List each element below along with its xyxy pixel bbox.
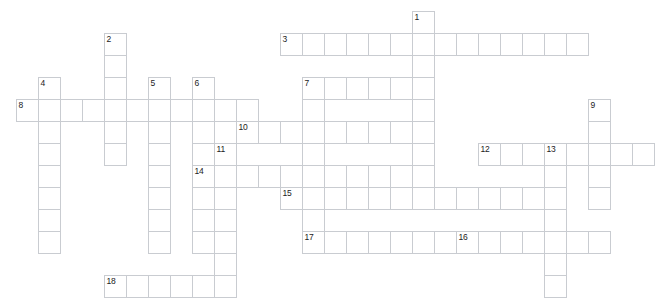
- crossword-cell[interactable]: [324, 121, 347, 144]
- crossword-cell-numbered[interactable]: 2: [104, 33, 127, 56]
- crossword-cell[interactable]: [500, 33, 523, 56]
- crossword-cell[interactable]: [522, 143, 545, 166]
- crossword-cell[interactable]: [412, 165, 435, 188]
- crossword-cell[interactable]: [390, 165, 413, 188]
- crossword-cell[interactable]: [368, 77, 391, 100]
- crossword-cell-numbered[interactable]: 6: [192, 77, 215, 100]
- crossword-cell-numbered[interactable]: 10: [236, 121, 259, 144]
- crossword-cell-numbered[interactable]: 8: [16, 99, 39, 122]
- crossword-cell-numbered[interactable]: 17: [302, 231, 325, 254]
- crossword-cell[interactable]: [544, 253, 567, 276]
- crossword-cell[interactable]: [478, 187, 501, 210]
- crossword-cell[interactable]: [192, 209, 215, 232]
- crossword-cell[interactable]: [500, 143, 523, 166]
- crossword-cell[interactable]: [192, 275, 215, 298]
- crossword-cell[interactable]: [148, 99, 171, 122]
- crossword-cell[interactable]: [346, 77, 369, 100]
- crossword-cell-numbered[interactable]: 9: [588, 99, 611, 122]
- crossword-cell[interactable]: [390, 231, 413, 254]
- crossword-cell[interactable]: [38, 187, 61, 210]
- crossword-cell[interactable]: [324, 231, 347, 254]
- crossword-cell[interactable]: [324, 165, 347, 188]
- crossword-cell-numbered[interactable]: 16: [456, 231, 479, 254]
- crossword-cell[interactable]: [258, 121, 281, 144]
- crossword-cell[interactable]: [500, 187, 523, 210]
- crossword-cell[interactable]: [544, 275, 567, 298]
- crossword-cell[interactable]: [610, 143, 633, 166]
- crossword-cell[interactable]: [456, 187, 479, 210]
- crossword-cell-numbered[interactable]: 15: [280, 187, 303, 210]
- crossword-cell[interactable]: [214, 187, 237, 210]
- crossword-cell[interactable]: [302, 33, 325, 56]
- crossword-cell[interactable]: [214, 231, 237, 254]
- crossword-cell[interactable]: [148, 165, 171, 188]
- crossword-cell[interactable]: [390, 33, 413, 56]
- crossword-cell[interactable]: [390, 121, 413, 144]
- crossword-cell[interactable]: [258, 165, 281, 188]
- crossword-cell[interactable]: [544, 209, 567, 232]
- crossword-cell[interactable]: [38, 99, 61, 122]
- crossword-cell[interactable]: [412, 187, 435, 210]
- crossword-cell[interactable]: [368, 231, 391, 254]
- crossword-cell[interactable]: [38, 231, 61, 254]
- crossword-cell[interactable]: [522, 33, 545, 56]
- crossword-cell[interactable]: [588, 165, 611, 188]
- crossword-cell[interactable]: [302, 165, 325, 188]
- crossword-cell-numbered[interactable]: 18: [104, 275, 127, 298]
- crossword-cell[interactable]: [38, 165, 61, 188]
- crossword-cell[interactable]: [434, 187, 457, 210]
- crossword-cell[interactable]: [148, 231, 171, 254]
- crossword-cell[interactable]: [236, 165, 259, 188]
- crossword-cell[interactable]: [302, 209, 325, 232]
- crossword-cell-numbered[interactable]: 14: [192, 165, 215, 188]
- crossword-cell[interactable]: [236, 99, 259, 122]
- crossword-cell[interactable]: [412, 33, 435, 56]
- crossword-cell[interactable]: [390, 77, 413, 100]
- crossword-cell[interactable]: [566, 143, 589, 166]
- crossword-cell[interactable]: [214, 165, 237, 188]
- crossword-cell[interactable]: [368, 187, 391, 210]
- crossword-cell[interactable]: [522, 231, 545, 254]
- crossword-cell[interactable]: [566, 33, 589, 56]
- crossword-cell[interactable]: [214, 99, 237, 122]
- crossword-cell[interactable]: [280, 121, 303, 144]
- crossword-cell[interactable]: [192, 121, 215, 144]
- crossword-cell[interactable]: [192, 99, 215, 122]
- crossword-cell[interactable]: [544, 187, 567, 210]
- crossword-cell[interactable]: [192, 187, 215, 210]
- crossword-cell[interactable]: [368, 33, 391, 56]
- crossword-cell-numbered[interactable]: 1: [412, 11, 435, 34]
- crossword-cell[interactable]: [324, 77, 347, 100]
- crossword-cell[interactable]: [104, 77, 127, 100]
- crossword-cell[interactable]: [148, 143, 171, 166]
- crossword-cell[interactable]: [588, 121, 611, 144]
- crossword-cell-numbered[interactable]: 12: [478, 143, 501, 166]
- crossword-cell-numbered[interactable]: 7: [302, 77, 325, 100]
- crossword-cell[interactable]: [302, 99, 325, 122]
- crossword-cell[interactable]: [148, 187, 171, 210]
- crossword-cell[interactable]: [346, 33, 369, 56]
- crossword-cell[interactable]: [38, 121, 61, 144]
- crossword-cell[interactable]: [302, 121, 325, 144]
- crossword-cell[interactable]: [412, 121, 435, 144]
- crossword-cell[interactable]: [324, 187, 347, 210]
- crossword-cell-numbered[interactable]: 13: [544, 143, 567, 166]
- crossword-cell[interactable]: [456, 33, 479, 56]
- crossword-cell[interactable]: [170, 275, 193, 298]
- crossword-cell[interactable]: [368, 121, 391, 144]
- crossword-cell[interactable]: [60, 99, 83, 122]
- crossword-cell[interactable]: [324, 33, 347, 56]
- crossword-cell[interactable]: [412, 143, 435, 166]
- crossword-cell-numbered[interactable]: 5: [148, 77, 171, 100]
- crossword-cell[interactable]: [38, 209, 61, 232]
- crossword-cell[interactable]: [544, 165, 567, 188]
- crossword-cell[interactable]: [104, 143, 127, 166]
- crossword-cell[interactable]: [588, 231, 611, 254]
- crossword-cell[interactable]: [126, 275, 149, 298]
- crossword-cell[interactable]: [104, 121, 127, 144]
- crossword-cell[interactable]: [412, 55, 435, 78]
- crossword-cell[interactable]: [280, 165, 303, 188]
- crossword-cell[interactable]: [148, 121, 171, 144]
- crossword-cell-numbered[interactable]: 11: [214, 143, 237, 166]
- crossword-cell[interactable]: [192, 231, 215, 254]
